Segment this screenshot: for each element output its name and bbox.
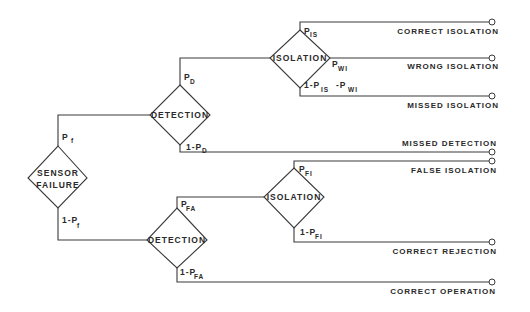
detection-lower-label: DETECTION xyxy=(148,235,206,245)
outcome-correct-isolation: CORRECT ISOLATION xyxy=(397,27,499,36)
one-minus-pfi-label: 1-P xyxy=(300,227,316,237)
sensor-failure-label-2: FAILURE xyxy=(36,180,79,190)
missed-iso-label-1: 1-P xyxy=(304,80,320,90)
outcome-missed-isolation: MISSED ISOLATION xyxy=(407,101,499,110)
missed-detection-terminal xyxy=(489,149,495,155)
missed-iso-sub-2: WI xyxy=(348,86,358,93)
one-minus-pfi-branch xyxy=(294,228,489,242)
one-minus-pd-label: 1-P xyxy=(186,142,202,152)
outcome-correct-operation: CORRECT OPERATION xyxy=(390,287,496,296)
pf-label: P xyxy=(62,132,69,142)
false-isolation-terminal xyxy=(489,158,495,164)
outcome-wrong-isolation: WRONG ISOLATION xyxy=(407,62,499,71)
one-minus-pfa-branch xyxy=(177,268,489,282)
sensor-failure-event-tree: SENSOR FAILURE P f 1-P f DETECTION P D 1… xyxy=(0,0,530,312)
pf-sub: f xyxy=(71,137,74,144)
wrong-isolation-terminal xyxy=(489,55,495,61)
outcome-missed-detection: MISSED DETECTION xyxy=(402,139,497,148)
one-minus-pf-sub: f xyxy=(77,222,80,229)
one-minus-pf-label: 1-P xyxy=(62,215,78,225)
missed-iso-sub-1: IS xyxy=(321,86,329,93)
pwi-sub: WI xyxy=(338,65,348,72)
sensor-failure-label-1: SENSOR xyxy=(37,168,79,178)
one-minus-pd-sub: D xyxy=(202,147,208,154)
detection-upper-label: DETECTION xyxy=(151,110,209,120)
correct-isolation-terminal xyxy=(489,19,495,25)
one-minus-pfi-sub: FI xyxy=(315,233,323,240)
pd-sub: D xyxy=(190,78,196,85)
isolation-upper-label: ISOLATION xyxy=(273,53,328,63)
outcome-correct-rejection: CORRECT REJECTION xyxy=(392,247,497,256)
missed-iso-label-2: -P xyxy=(336,80,347,90)
pis-sub: IS xyxy=(310,31,318,38)
isolation-lower-label: ISOLATION xyxy=(267,192,322,202)
missed-isolation-terminal xyxy=(489,93,495,99)
pfa-sub: FA xyxy=(186,205,196,212)
outcome-false-isolation: FALSE ISOLATION xyxy=(411,166,497,175)
pfi-sub: FI xyxy=(305,170,313,177)
correct-rejection-terminal xyxy=(489,239,495,245)
one-minus-pfa-sub: FA xyxy=(194,273,204,280)
correct-operation-terminal xyxy=(489,279,495,285)
